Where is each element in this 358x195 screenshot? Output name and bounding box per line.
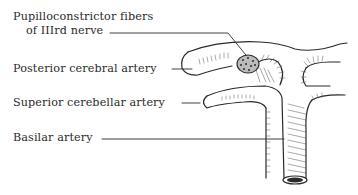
leader-pupilloconstrictor bbox=[110, 33, 250, 60]
diagram-canvas: Pupilloconstrictor fibers of IIIrd nerve… bbox=[0, 0, 358, 195]
posterior-cerebral-artery-drawing bbox=[182, 42, 347, 86]
pupilloconstrictor-fibers-drawing bbox=[237, 55, 259, 73]
superior-cerebellar-artery-drawing bbox=[204, 86, 346, 178]
basilar-artery-drawing bbox=[266, 108, 307, 184]
artery-illustration bbox=[0, 0, 358, 195]
